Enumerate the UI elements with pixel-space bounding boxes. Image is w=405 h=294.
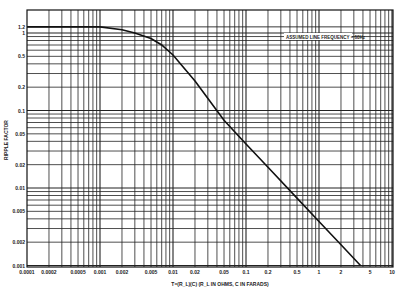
ripple-curve [27, 27, 361, 266]
y-tick-label: 0.001 [12, 263, 25, 269]
y-tick-label: 1 [22, 30, 25, 36]
y-tick-label: 0.2 [18, 84, 25, 90]
y-tick-label: 0.5 [18, 53, 25, 59]
frequency-annotation: ASSUMED LINE FREQUENCY = 60Hz [286, 35, 366, 40]
x-tick-label: 0.002 [116, 269, 129, 275]
x-tick-label: 0.02 [190, 269, 200, 275]
grid-lines [27, 10, 393, 267]
x-tick-label: 0.05 [219, 269, 229, 275]
y-tick-label: 0.01 [15, 185, 25, 191]
x-tick-label: 0.5 [294, 269, 301, 275]
x-tick-label: 0.005 [145, 269, 158, 275]
x-axis-ticks: 0.00010.00020.00050.0010.0020.0050.010.0… [19, 269, 395, 275]
y-axis-title: RIPPLE FACTOR [3, 120, 9, 160]
x-tick-label: 0.1 [243, 269, 250, 275]
y-axis-ticks: 1.210.50.20.10.050.020.010.0050.0020.001 [12, 24, 25, 269]
y-tick-label: 0.002 [12, 239, 25, 245]
y-tick-label: 0.05 [15, 131, 25, 137]
x-tick-label: 0.2 [264, 269, 271, 275]
x-tick-label: 0.001 [94, 269, 107, 275]
y-tick-label: 1.2 [18, 24, 25, 30]
y-tick-label: 0.02 [15, 162, 25, 168]
y-tick-label: 0.005 [12, 208, 25, 214]
ripple-factor-chart: 0.00010.00020.00050.0010.0020.0050.010.0… [0, 0, 405, 294]
x-tick-label: 1 [318, 269, 321, 275]
x-tick-label: 0.01 [168, 269, 178, 275]
x-tick-label: 0.0001 [19, 269, 35, 275]
x-tick-label: 5 [369, 269, 372, 275]
x-tick-label: 2 [340, 269, 343, 275]
x-axis-title: T=(R_L)(C) (R_L IN OHMS, C IN FARADS) [171, 281, 269, 287]
x-tick-label: 10 [389, 269, 395, 275]
y-tick-label: 0.1 [18, 108, 25, 114]
x-tick-label: 0.0005 [70, 269, 86, 275]
x-tick-label: 0.0002 [41, 269, 57, 275]
